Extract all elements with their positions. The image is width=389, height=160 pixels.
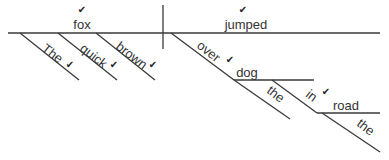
checkmark-icon: ✔ <box>239 4 247 15</box>
word-the-3: the <box>354 116 377 139</box>
word-road: road <box>333 98 359 113</box>
checkmark-icon: ✔ <box>66 59 74 70</box>
sentence-diagram: fox✔jumped✔The✔quick✔brown✔over✔dogthein… <box>0 0 389 160</box>
word-jumped: jumped <box>224 17 268 32</box>
checkmark-icon: ✔ <box>322 86 330 97</box>
checkmark-icon: ✔ <box>226 54 234 65</box>
word-the-1: The <box>39 41 66 67</box>
word-brown: brown <box>113 39 150 73</box>
checkmark-icon: ✔ <box>110 59 118 70</box>
word-quick: quick <box>77 41 111 72</box>
word-dog: dog <box>236 65 258 80</box>
diagram-labels: fox✔jumped✔The✔quick✔brown✔over✔dogthein… <box>39 4 377 138</box>
word-the-2: the <box>264 83 287 106</box>
checkmark-icon: ✔ <box>149 59 157 70</box>
checkmark-icon: ✔ <box>78 4 86 15</box>
diagram-lines <box>8 5 380 152</box>
word-fox: fox <box>73 17 91 32</box>
word-in: in <box>303 87 320 105</box>
